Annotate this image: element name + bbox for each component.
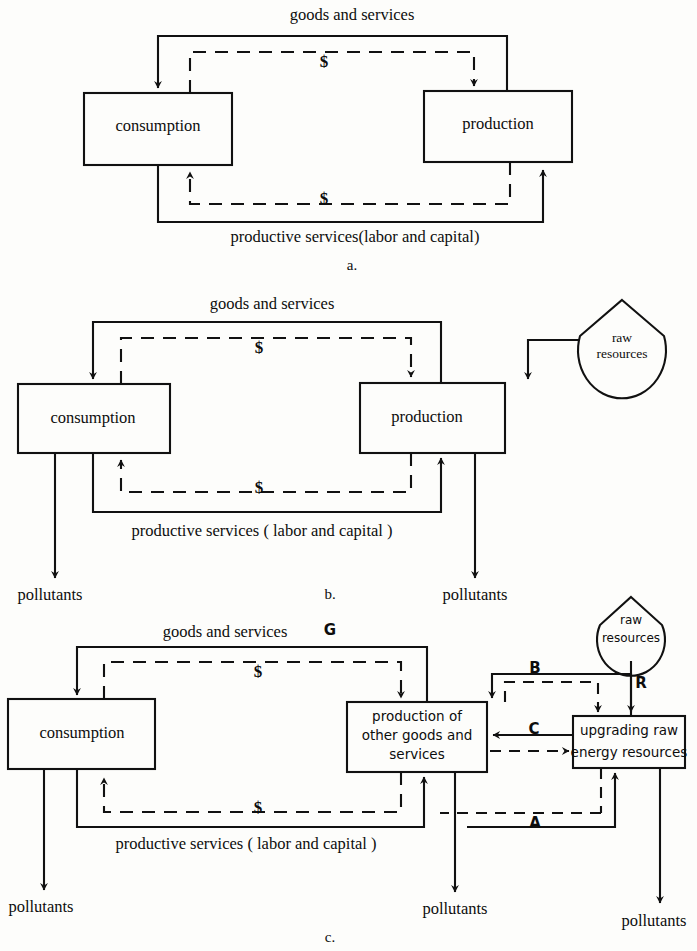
panel-c-consumption-label: consumption xyxy=(39,724,124,741)
panel-b-raw-resources-label-line2: resources xyxy=(597,347,648,361)
panel-a-dollar-bottom-flow xyxy=(190,162,510,204)
panel-a-goods-flow xyxy=(158,36,507,91)
panel-c-flow-b-dashed xyxy=(505,682,598,712)
panel-b-caption: b. xyxy=(324,587,335,603)
panel-c-caption: c. xyxy=(325,930,335,946)
panel-b-dollar-top-flow xyxy=(121,338,411,384)
panel-a-productive-services-label: productive services(labor and capital) xyxy=(231,228,480,245)
figure-canvas: goods and services $ consumption product… xyxy=(0,0,697,951)
panel-c-dollar-bottom-label: $ xyxy=(254,799,263,817)
panel-c-flow-symbol-b-label: B xyxy=(529,661,540,677)
panel-a-dollar-top-label: $ xyxy=(320,53,329,71)
panel-c-production-other-label-line2: other goods and xyxy=(362,727,473,744)
panel-a-consumption-label: consumption xyxy=(115,117,200,134)
panel-b-goods-and-services-label: goods and services xyxy=(210,295,335,312)
panel-b-raw-resources-label-line1: raw xyxy=(612,331,632,345)
panel-c-pollutants-upgrading-label: pollutants xyxy=(621,912,686,929)
panel-a-dollar-bottom-label: $ xyxy=(320,190,329,208)
panel-a-caption: a. xyxy=(347,258,357,274)
panel-c-flow-symbol-g-label: G xyxy=(324,623,336,639)
panel-c-upgrading-label-line2: energy resources xyxy=(571,744,688,761)
panel-a-goods-and-services-label: goods and services xyxy=(290,6,415,23)
panel-c-production-other-label-line1: production of xyxy=(372,708,462,725)
panel-c-goods-and-services-label: goods and services xyxy=(163,623,288,640)
panel-b-pollutants-production-label: pollutants xyxy=(442,586,507,603)
panel-c-production-other-label-line3: services xyxy=(389,746,444,763)
panel-c-productive-services-label: productive services ( labor and capital … xyxy=(115,835,376,852)
panel-c-flow-symbol-a-label: A xyxy=(529,816,541,832)
panel-b-dollar-top-label: $ xyxy=(255,339,264,357)
panel-b-pollutants-consumption-label: pollutants xyxy=(17,586,82,603)
panel-c-upgrading-label-line1: upgrading raw xyxy=(580,722,678,739)
panel-b-goods-flow xyxy=(93,322,441,383)
panel-b-productive-services-flow xyxy=(93,453,441,512)
diagram-lines xyxy=(0,0,697,951)
panel-a-productive-services-flow xyxy=(158,165,543,222)
panel-c-flow-b-solid xyxy=(492,674,631,716)
panel-c-goods-flow xyxy=(77,647,427,702)
panel-b-dollar-bottom-label: $ xyxy=(255,479,264,497)
panel-c-dollar-bottom-flow xyxy=(104,772,401,812)
panel-c-dollar-top-label: $ xyxy=(254,663,263,681)
panel-c-pollutants-consumption-label: pollutants xyxy=(8,898,73,915)
panel-c-flow-symbol-c-label: C xyxy=(528,722,539,738)
panel-c-raw-resources-label-line2: resources xyxy=(602,632,660,645)
panel-a-production-label: production xyxy=(462,115,534,132)
panel-b-raw-resources-flow xyxy=(528,340,580,379)
panel-a-dollar-top-flow xyxy=(190,52,474,93)
panel-c-pollutants-production-label: pollutants xyxy=(422,900,487,917)
panel-b-productive-services-label: productive services ( labor and capital … xyxy=(131,522,392,539)
panel-c-dollar-top-flow xyxy=(104,662,401,699)
panel-c-productive-services-flow xyxy=(77,769,424,827)
panel-c-raw-resources-label-line1: raw xyxy=(620,614,642,627)
panel-c-flow-symbol-r-label: R xyxy=(635,676,647,692)
panel-b-dollar-bottom-flow xyxy=(121,453,411,492)
panel-b-consumption-label: consumption xyxy=(50,409,135,426)
panel-b-production-label: production xyxy=(391,408,463,425)
